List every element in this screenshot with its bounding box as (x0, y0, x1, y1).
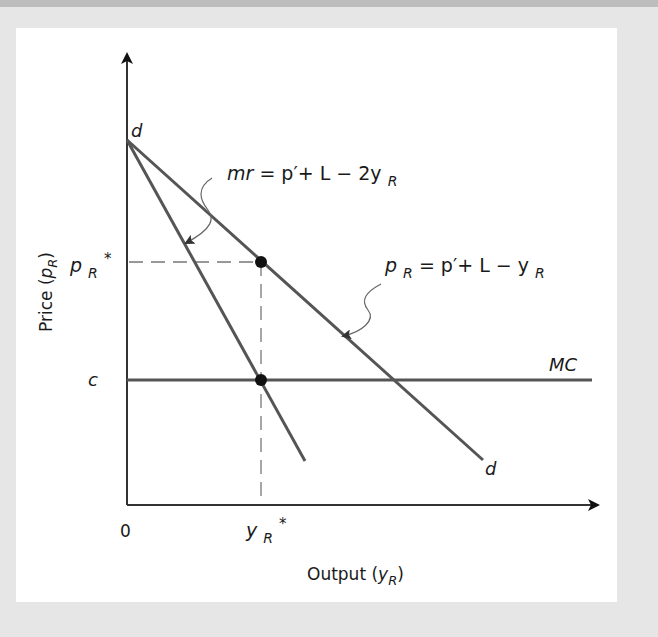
pR-star-tick-label: p R * (69, 250, 112, 282)
demand-equilibrium-point (255, 256, 267, 268)
demand-bottom-label: d (485, 458, 497, 479)
demand-line (127, 140, 483, 460)
x-axis-title: Output (yR) (307, 564, 404, 588)
mc-label: MC (549, 354, 578, 375)
demand-equation-label: p R = p′+ L − y R (384, 254, 545, 282)
mr-mc-intersection-point (255, 374, 267, 386)
monopoly-diagram: d d MC mr = p′+ L − 2y R p R = p′+ L − y… (0, 0, 658, 637)
yR-star-tick-label: y R * (245, 515, 287, 547)
c-tick-label: c (88, 369, 98, 390)
y-axis-title: Price (pR) (36, 252, 60, 332)
mr-equation-label: mr = p′+ L − 2y R (227, 162, 397, 189)
origin-label: 0 (120, 521, 131, 541)
mr-line (127, 140, 305, 461)
demand-label-pointer (343, 284, 381, 336)
mr-label-pointer (186, 178, 212, 243)
demand-top-label: d (131, 120, 143, 141)
